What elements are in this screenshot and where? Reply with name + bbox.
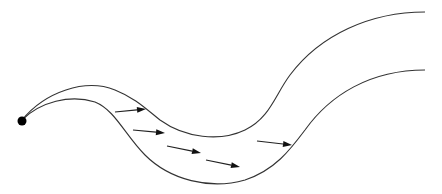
arrow-head [192, 148, 201, 154]
source-point [18, 117, 27, 126]
arrow-shaft [206, 160, 231, 165]
arrow-head [283, 141, 292, 147]
lower-boundary-curve [22, 70, 425, 184]
arrow-shaft [115, 110, 137, 112]
flow-arrow-icon [206, 160, 240, 168]
arrow-head [156, 129, 165, 135]
arrow-shaft [167, 146, 192, 151]
upper-boundary-curve [22, 12, 425, 137]
flow-arrow-icon [167, 146, 201, 154]
arrow-shaft [133, 130, 156, 132]
flow-diagram [0, 0, 442, 194]
arrow-head [231, 162, 240, 168]
flow-arrow-icon [133, 129, 165, 135]
flow-arrow-icon [115, 107, 146, 113]
arrow-shaft [257, 141, 283, 144]
diagram-svg [0, 0, 442, 194]
flow-arrow-icon [257, 141, 292, 147]
